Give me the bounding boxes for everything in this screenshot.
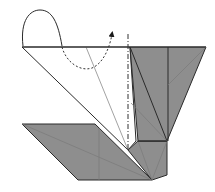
origami-diagram bbox=[0, 0, 215, 192]
right-flap bbox=[130, 47, 206, 141]
loop-curve bbox=[22, 10, 62, 46]
